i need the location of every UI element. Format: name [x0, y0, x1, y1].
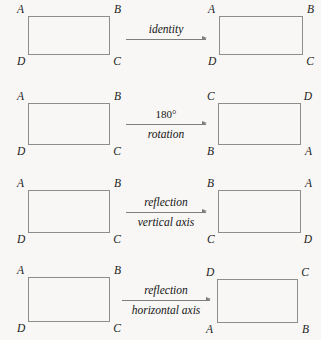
- source-rectangle-rotation-180: A B D C: [28, 103, 110, 145]
- vertex-label-top-left: A: [17, 91, 24, 103]
- vertex-label-top-right: D: [304, 91, 312, 103]
- arrow-head-icon: [206, 297, 211, 301]
- vertex-label-top-right: B: [114, 178, 121, 190]
- rectangle-outline: [218, 103, 301, 145]
- result-rectangle-reflection-vertical-axis: B A C D: [218, 190, 301, 233]
- vertex-label-bottom-left: D: [17, 56, 25, 68]
- result-rectangle-identity: A B D C: [219, 16, 303, 55]
- vertex-label-top-right: A: [305, 178, 312, 190]
- rectangle-outline: [217, 279, 298, 323]
- vertex-label-bottom-right: C: [113, 146, 121, 158]
- vertex-label-bottom-left: D: [17, 234, 25, 246]
- result-rectangle-reflection-horizontal-axis: D C A B: [217, 279, 298, 323]
- source-rectangle-reflection-horizontal-axis: A B D C: [28, 277, 110, 322]
- arrow-label-above: identity: [126, 24, 206, 36]
- transformation-arrow-reflection-horizontal-axis: reflection horizontal axis: [122, 289, 210, 311]
- arrow-line: [126, 212, 206, 213]
- arrow-label-below: vertical axis: [126, 217, 206, 229]
- transformation-arrow-reflection-vertical-axis: reflection vertical axis: [126, 201, 206, 223]
- arrow-label-above: 180°: [126, 109, 206, 120]
- vertex-label-top-left: A: [17, 178, 24, 190]
- arrow-line: [126, 39, 206, 40]
- transformation-row-reflection-vertical-axis: A B D C reflection vertical axis B A C D: [0, 173, 321, 261]
- arrow-head-icon: [202, 121, 207, 125]
- vertex-label-top-left: A: [208, 4, 215, 16]
- vertex-label-bottom-left: D: [17, 323, 25, 335]
- rectangle-outline: [28, 103, 110, 145]
- arrow-head-icon: [202, 209, 207, 213]
- vertex-label-bottom-right: C: [113, 56, 121, 68]
- vertex-label-top-left: B: [207, 178, 214, 190]
- rectangle-outline: [28, 16, 110, 55]
- arrow-line: [126, 124, 206, 125]
- transformation-arrow-identity: identity: [126, 28, 206, 50]
- vertex-label-top-left: D: [206, 267, 214, 279]
- arrow-line: [122, 300, 210, 301]
- vertex-label-bottom-right: C: [306, 56, 314, 68]
- transformation-row-identity: A B D C identity A B D C: [0, 0, 321, 85]
- vertex-label-bottom-left: A: [206, 324, 213, 336]
- transformation-row-rotation-180: A B D C 180° rotation C D B A: [0, 85, 321, 173]
- vertex-label-bottom-left: B: [207, 146, 214, 158]
- arrow-label-above: reflection: [122, 285, 210, 297]
- result-rectangle-rotation-180: C D B A: [218, 103, 301, 145]
- vertex-label-top-left: A: [17, 4, 24, 16]
- arrow-label-below: rotation: [126, 129, 206, 141]
- vertex-label-top-right: B: [307, 4, 314, 16]
- transformation-figure: A B D C identity A B D C A B D C: [0, 0, 321, 340]
- vertex-label-bottom-left: D: [17, 146, 25, 158]
- rectangle-outline: [218, 190, 301, 233]
- source-rectangle-reflection-vertical-axis: A B D C: [28, 190, 110, 233]
- vertex-label-bottom-right: C: [113, 234, 121, 246]
- vertex-label-top-right: B: [114, 4, 121, 16]
- vertex-label-top-right: B: [114, 91, 121, 103]
- source-rectangle-identity: A B D C: [28, 16, 110, 55]
- arrow-head-icon: [202, 36, 207, 40]
- vertex-label-top-right: C: [301, 267, 309, 279]
- vertex-label-bottom-right: B: [302, 324, 309, 336]
- vertex-label-bottom-right: A: [305, 146, 312, 158]
- vertex-label-bottom-right: C: [113, 323, 121, 335]
- rectangle-outline: [219, 16, 303, 55]
- vertex-label-top-left: A: [17, 265, 24, 277]
- vertex-label-bottom-right: D: [304, 234, 312, 246]
- rectangle-outline: [28, 190, 110, 233]
- rectangle-outline: [28, 277, 110, 322]
- vertex-label-top-left: C: [207, 91, 215, 103]
- vertex-label-bottom-left: C: [207, 234, 215, 246]
- transformation-row-reflection-horizontal-axis: A B D C reflection horizontal axis D C A…: [0, 261, 321, 340]
- vertex-label-top-right: B: [114, 265, 121, 277]
- arrow-label-above: reflection: [126, 197, 206, 209]
- arrow-label-below: horizontal axis: [122, 305, 210, 317]
- transformation-arrow-rotation-180: 180° rotation: [126, 113, 206, 135]
- vertex-label-bottom-left: D: [208, 56, 216, 68]
